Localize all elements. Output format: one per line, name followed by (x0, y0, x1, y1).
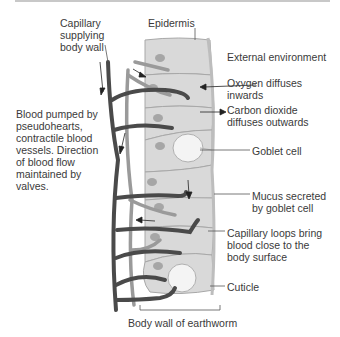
label-carbon-dioxide: Carbon dioxide diffuses outwards (227, 104, 309, 128)
label-blood-pumped: Blood pumped by pseudohearts, contractil… (16, 108, 98, 192)
label-capillary-loops: Capillary loops bring blood close to the… (227, 227, 322, 263)
label-body-wall: Body wall of earthworm (128, 317, 237, 329)
label-capillary: Capillary supplying body wall (60, 17, 104, 53)
label-mucus: Mucus secreted by goblet cell (252, 190, 326, 214)
label-epidermis: Epidermis (148, 17, 195, 29)
epidermis-cells (143, 38, 214, 294)
label-goblet-cell: Goblet cell (252, 145, 302, 157)
label-cuticle: Cuticle (227, 281, 259, 293)
label-oxygen: Oxygen diffuses inwards (227, 77, 302, 101)
label-external-environment: External environment (227, 51, 326, 63)
